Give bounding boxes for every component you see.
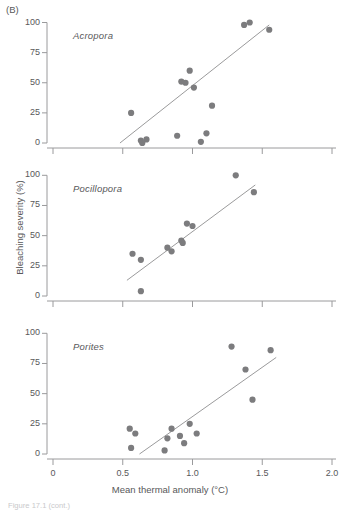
- data-point: [132, 430, 138, 436]
- data-point: [139, 140, 145, 146]
- data-point: [187, 421, 193, 427]
- figure-panel-b: (B) Bleaching severity (%) Mean thermal …: [0, 0, 340, 510]
- data-point: [187, 68, 193, 74]
- y-tick-label: 50: [8, 230, 40, 240]
- y-tick-label: 75: [8, 47, 40, 57]
- data-point: [128, 110, 134, 116]
- y-tick-label: 25: [8, 418, 40, 428]
- data-point: [138, 288, 144, 294]
- data-point: [181, 440, 187, 446]
- x-tick-label: 1.0: [173, 468, 213, 478]
- trend-line-porites: [139, 357, 276, 454]
- y-tick-label: 100: [8, 327, 40, 337]
- x-tick-label: 2.0: [312, 468, 340, 478]
- data-point: [194, 430, 200, 436]
- data-point: [203, 130, 209, 136]
- data-point: [138, 257, 144, 263]
- data-point: [249, 397, 255, 403]
- y-tick-label: 100: [8, 17, 40, 27]
- data-point: [180, 240, 186, 246]
- y-tick-label: 100: [8, 169, 40, 179]
- data-point: [209, 103, 215, 109]
- y-tick-label: 50: [8, 388, 40, 398]
- y-tick-label: 25: [8, 107, 40, 117]
- scatter-plot-canvas: [0, 0, 340, 510]
- figure-caption: Figure 17.1 (cont.): [8, 501, 338, 510]
- data-point: [233, 172, 239, 178]
- y-tick-label: 50: [8, 77, 40, 87]
- data-point: [177, 433, 183, 439]
- data-point: [128, 445, 134, 451]
- data-point: [162, 447, 168, 453]
- y-tick-label: 25: [8, 260, 40, 270]
- data-point: [268, 347, 274, 353]
- trend-line-pocillopora: [127, 185, 255, 280]
- data-point: [247, 19, 253, 25]
- data-point: [241, 22, 247, 28]
- data-point: [182, 80, 188, 86]
- data-point: [168, 426, 174, 432]
- data-point: [184, 220, 190, 226]
- x-tick-label: 0.5: [103, 468, 143, 478]
- data-point: [164, 435, 170, 441]
- data-point: [198, 139, 204, 145]
- y-tick-label: 0: [8, 290, 40, 300]
- data-point: [228, 343, 234, 349]
- trend-line-acropora: [120, 25, 269, 143]
- y-tick-label: 0: [8, 137, 40, 147]
- y-tick-label: 75: [8, 357, 40, 367]
- x-tick-label: 0: [33, 468, 73, 478]
- data-point: [266, 27, 272, 33]
- data-point: [242, 366, 248, 372]
- data-point: [168, 248, 174, 254]
- data-point: [129, 251, 135, 257]
- data-point: [251, 189, 257, 195]
- data-point: [191, 84, 197, 90]
- x-tick-label: 1.5: [242, 468, 282, 478]
- data-point: [174, 133, 180, 139]
- data-point: [127, 426, 133, 432]
- data-point: [189, 223, 195, 229]
- y-tick-label: 0: [8, 448, 40, 458]
- y-tick-label: 75: [8, 199, 40, 209]
